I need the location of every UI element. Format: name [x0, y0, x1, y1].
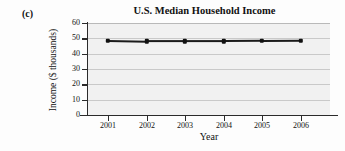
y-tick-label-50-wrap: 50	[56, 34, 80, 42]
x-tick-label-2006: 2006	[281, 121, 321, 131]
figure-panel: (c) U.S. Median Household Income Income …	[0, 0, 345, 151]
x-tick-label-2006-wrap: 2006	[281, 121, 321, 131]
x-axis-line	[80, 115, 338, 116]
y-tick-10	[82, 100, 88, 101]
gridline-10	[88, 100, 330, 101]
x-tick-label-2003-wrap: 2003	[165, 121, 205, 131]
y-tick-label-30-wrap: 30	[56, 65, 80, 73]
x-tick-label-2002: 2002	[127, 121, 167, 131]
x-tick-label-2001: 2001	[88, 121, 128, 131]
y-tick-50	[82, 38, 88, 39]
part-label: (c)	[22, 8, 33, 19]
y-tick-label-10: 10	[58, 96, 80, 104]
y-tick-label-60: 60	[58, 19, 80, 27]
x-tick-label-2005-wrap: 2005	[242, 121, 282, 131]
y-tick-label-30: 30	[58, 65, 80, 73]
y-tick-label-40: 40	[58, 50, 80, 58]
x-tick-label-2004-wrap: 2004	[204, 121, 244, 131]
chart-title: U.S. Median Household Income	[72, 5, 337, 16]
x-axis-title: Year	[88, 131, 330, 142]
y-tick-20	[82, 84, 88, 85]
y-tick-label-60-wrap: 60	[56, 19, 80, 27]
gridline-40	[88, 54, 330, 55]
y-tick-label-0-wrap: 0	[56, 111, 80, 119]
y-tick-label-20: 20	[58, 80, 80, 88]
x-tick-label-2004: 2004	[204, 121, 244, 131]
y-tick-60	[82, 23, 88, 24]
y-tick-label-40-wrap: 40	[56, 50, 80, 58]
x-tick-label-2005: 2005	[242, 121, 282, 131]
y-tick-label-10-wrap: 10	[56, 96, 80, 104]
gridline-50	[88, 38, 330, 39]
gridline-30	[88, 69, 330, 70]
plot-area	[88, 23, 330, 115]
y-tick-label-20-wrap: 20	[56, 80, 80, 88]
x-tick-label-2001-wrap: 2001	[88, 121, 128, 131]
x-tick-label-2003: 2003	[165, 121, 205, 131]
y-tick-label-50: 50	[58, 34, 80, 42]
y-tick-0	[82, 115, 88, 116]
y-tick-40	[82, 54, 88, 55]
y-tick-label-0: 0	[58, 111, 80, 119]
y-tick-30	[82, 69, 88, 70]
plot-top-border	[88, 23, 330, 24]
gridline-20	[88, 84, 330, 85]
x-tick-label-2002-wrap: 2002	[127, 121, 167, 131]
